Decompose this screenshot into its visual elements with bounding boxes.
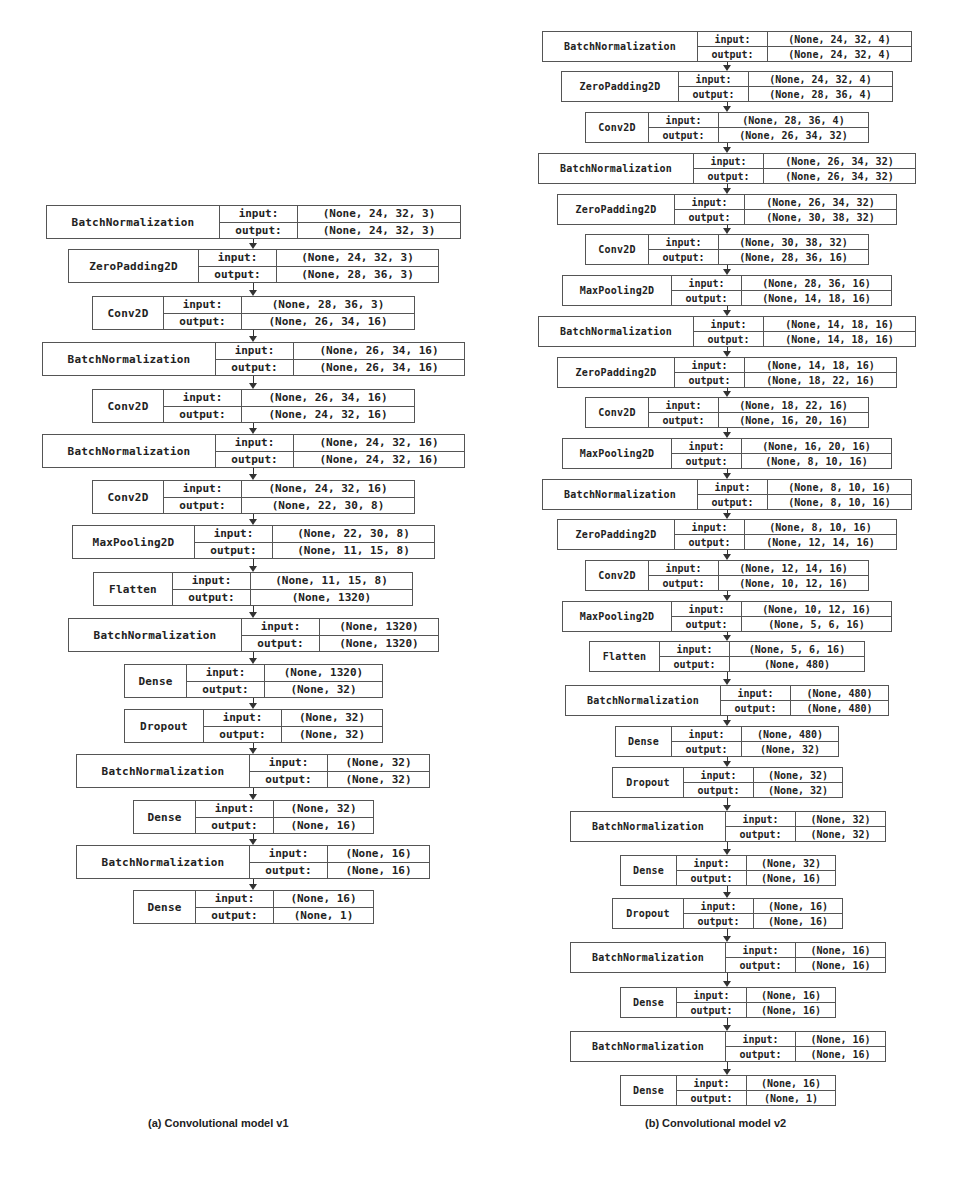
output-key-label: output: <box>195 542 272 559</box>
layer-name: ZeroPadding2D <box>558 520 675 549</box>
layer-node: BatchNormalizationinput:output:(None, 14… <box>538 316 916 347</box>
input-shape: (None, 24, 32, 16) <box>242 481 414 497</box>
input-shape: (None, 32) <box>796 812 885 826</box>
io-keys: input:output: <box>698 32 768 61</box>
layer-name: Dense <box>134 891 196 923</box>
layer-node: Conv2Dinput:output:(None, 18, 22, 16)(No… <box>585 397 869 428</box>
input-shape: (None, 16) <box>274 891 373 907</box>
input-key-label: input: <box>675 195 744 209</box>
io-keys: input:output: <box>677 856 747 885</box>
output-key-label: output: <box>677 1002 746 1017</box>
io-keys: input:output: <box>242 619 320 651</box>
output-shape: (None, 28, 36, 16) <box>719 249 868 264</box>
layer-node: BatchNormalizationinput:output:(None, 16… <box>570 1031 886 1062</box>
io-shapes: (None, 1320)(None, 32) <box>265 665 382 697</box>
output-shape: (None, 26, 34, 32) <box>764 168 915 183</box>
input-key-label: input: <box>677 856 746 870</box>
input-key-label: input: <box>694 317 763 331</box>
layer-node: Denseinput:output:(None, 480)(None, 32) <box>615 726 839 757</box>
io-shapes: (None, 30, 38, 32)(None, 28, 36, 16) <box>719 235 868 264</box>
layer-name: ZeroPadding2D <box>558 195 675 224</box>
layer-node: MaxPooling2Dinput:output:(None, 10, 12, … <box>562 601 892 632</box>
input-key-label: input: <box>677 988 746 1002</box>
io-keys: input:output: <box>196 891 274 923</box>
io-shapes: (None, 16)(None, 16) <box>754 899 842 928</box>
output-key-label: output: <box>672 453 741 468</box>
io-keys: input:output: <box>204 710 282 742</box>
io-shapes: (None, 14, 18, 16)(None, 18, 22, 16) <box>745 358 896 387</box>
layer-node: ZeroPadding2Dinput:output:(None, 8, 10, … <box>557 519 897 550</box>
layer-node: BatchNormalizationinput:output:(None, 32… <box>570 811 886 842</box>
output-shape: (None, 32) <box>265 681 382 698</box>
io-keys: input:output: <box>250 755 328 787</box>
layer-node: Conv2Dinput:output:(None, 26, 34, 16)(No… <box>92 389 415 423</box>
input-shape: (None, 22, 30, 8) <box>273 526 434 542</box>
io-shapes: (None, 24, 32, 16)(None, 24, 32, 16) <box>294 435 464 467</box>
input-shape: (None, 24, 32, 3) <box>277 250 438 266</box>
input-key-label: input: <box>649 398 718 412</box>
output-shape: (None, 30, 38, 32) <box>745 209 896 224</box>
io-keys: input:output: <box>216 435 294 467</box>
input-key-label: input: <box>679 72 748 86</box>
io-shapes: (None, 1320)(None, 1320) <box>320 619 438 651</box>
io-keys: input:output: <box>672 439 742 468</box>
output-key-label: output: <box>660 656 729 671</box>
output-key-label: output: <box>698 494 767 509</box>
output-key-label: output: <box>672 616 741 631</box>
output-key-label: output: <box>187 681 264 698</box>
io-keys: input:output: <box>649 561 719 590</box>
output-shape: (None, 16, 20, 16) <box>719 412 868 427</box>
output-shape: (None, 24, 32, 3) <box>298 222 460 239</box>
output-shape: (None, 26, 34, 16) <box>294 359 464 376</box>
output-key-label: output: <box>164 313 241 330</box>
output-shape: (None, 24, 32, 16) <box>242 406 414 423</box>
io-shapes: (None, 12, 14, 16)(None, 10, 12, 16) <box>719 561 868 590</box>
output-key-label: output: <box>164 406 241 423</box>
input-key-label: input: <box>164 297 241 313</box>
input-shape: (None, 18, 22, 16) <box>719 398 868 412</box>
layer-name: Dense <box>616 727 672 756</box>
layer-name: Conv2D <box>586 398 649 427</box>
io-keys: input:output: <box>694 317 764 346</box>
output-shape: (None, 32) <box>328 771 429 788</box>
input-key-label: input: <box>726 1032 795 1046</box>
output-key-label: output: <box>694 168 763 183</box>
input-shape: (None, 16) <box>747 988 835 1002</box>
io-keys: input:output: <box>649 113 719 142</box>
layer-node: BatchNormalizationinput:output:(None, 13… <box>68 618 439 652</box>
output-key-label: output: <box>694 331 763 346</box>
output-shape: (None, 14, 18, 16) <box>742 290 891 305</box>
input-key-label: input: <box>677 1076 746 1090</box>
io-shapes: (None, 32)(None, 32) <box>754 768 842 797</box>
input-key-label: input: <box>675 520 744 534</box>
io-shapes: (None, 480)(None, 32) <box>742 727 838 756</box>
output-key-label: output: <box>204 726 281 743</box>
input-shape: (None, 26, 34, 32) <box>764 154 915 168</box>
io-keys: input:output: <box>164 390 242 422</box>
layer-node: Conv2Dinput:output:(None, 28, 36, 3)(Non… <box>92 296 415 330</box>
output-key-label: output: <box>649 412 718 427</box>
layer-node: BatchNormalizationinput:output:(None, 26… <box>42 342 465 376</box>
layer-node: Dropoutinput:output:(None, 32)(None, 32) <box>124 709 383 743</box>
layer-node: Dropoutinput:output:(None, 16)(None, 16) <box>612 898 843 929</box>
layer-name: Conv2D <box>586 561 649 590</box>
io-shapes: (None, 22, 30, 8)(None, 11, 15, 8) <box>273 526 434 558</box>
output-shape: (None, 8, 10, 16) <box>742 453 891 468</box>
layer-node: BatchNormalizationinput:output:(None, 26… <box>538 153 916 184</box>
layer-name: BatchNormalization <box>43 343 216 375</box>
layer-name: Conv2D <box>93 481 164 513</box>
io-keys: input:output: <box>216 343 294 375</box>
layer-name: Conv2D <box>93 390 164 422</box>
io-shapes: (None, 26, 34, 16)(None, 26, 34, 16) <box>294 343 464 375</box>
output-shape: (None, 28, 36, 3) <box>277 266 438 283</box>
io-keys: input:output: <box>679 72 749 101</box>
output-key-label: output: <box>649 127 718 142</box>
layer-node: BatchNormalizationinput:output:(None, 24… <box>46 205 461 239</box>
layer-node: BatchNormalizationinput:output:(None, 8,… <box>542 479 912 510</box>
io-keys: input:output: <box>250 846 328 878</box>
layer-node: BatchNormalizationinput:output:(None, 24… <box>42 434 465 468</box>
output-key-label: output: <box>220 222 297 239</box>
layer-name: ZeroPadding2D <box>562 72 679 101</box>
layer-node: Conv2Dinput:output:(None, 28, 36, 4)(Non… <box>585 112 869 143</box>
io-keys: input:output: <box>684 899 754 928</box>
